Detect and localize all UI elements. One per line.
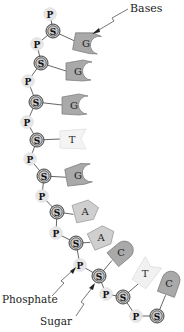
node-letter: S	[54, 208, 61, 218]
base-letter: G	[74, 170, 82, 181]
base-letter: T	[142, 268, 149, 279]
phosphate-pointer-arrow	[52, 271, 72, 296]
sugar-node: S	[30, 133, 44, 147]
base-g: G	[66, 60, 92, 81]
sugar-node: S	[34, 56, 48, 70]
sugar-node: S	[116, 290, 130, 304]
node-letter: S	[120, 293, 127, 303]
phosphate-node: P	[36, 190, 49, 203]
node-letter: P	[133, 312, 140, 322]
sugar-node: S	[92, 269, 106, 283]
bases-arrowhead-icon	[92, 28, 100, 34]
phosphate-arrowhead-icon	[70, 267, 76, 274]
node-letter: S	[38, 59, 45, 69]
sugar-node: S	[46, 24, 60, 38]
base-letter: C	[165, 278, 173, 289]
base-t: T	[60, 129, 86, 149]
phosphate-node: P	[100, 288, 113, 301]
phosphate-node: P	[130, 310, 143, 323]
phosphate-node: P	[74, 259, 87, 272]
base-letter: G	[82, 38, 90, 49]
bases-pointer-arrow	[97, 9, 128, 31]
base-letter: G	[74, 66, 82, 77]
node-letter: S	[41, 172, 48, 182]
base-a: A	[87, 222, 118, 251]
phosphate-node: P	[31, 38, 44, 51]
sugar-node: S	[50, 205, 64, 219]
base-g: G	[62, 94, 88, 115]
base-letter: G	[70, 100, 78, 111]
node-letter: P	[24, 118, 31, 128]
base-c: C	[157, 269, 182, 298]
base-letter: T	[69, 134, 76, 145]
sugar-arrowhead-icon	[89, 283, 95, 290]
node-letter: P	[27, 155, 34, 165]
phosphate-node: P	[24, 153, 37, 166]
node-letter: P	[53, 229, 60, 239]
phosphate-node: P	[22, 75, 35, 88]
bases-label: Bases	[130, 2, 163, 15]
sugar-label: Sugar	[40, 315, 73, 327]
node-letter: S	[34, 136, 41, 146]
node-letter: P	[34, 40, 41, 50]
node-letter: S	[33, 98, 40, 108]
dna-strand-diagram: GGGTGAACTC PSPSPSPSPSPSPSPSPSPS Bases Ph…	[0, 0, 184, 332]
node-letter: P	[25, 77, 32, 87]
phosphate-node: P	[50, 227, 63, 240]
sugar-pointer-arrow	[76, 288, 92, 316]
base-g: G	[72, 30, 101, 55]
node-letter: P	[103, 290, 110, 300]
sugar-node: S	[29, 95, 43, 109]
sugar-node: S	[37, 169, 51, 183]
node-letter: P	[77, 261, 84, 271]
base-letter: A	[80, 206, 89, 217]
phosphate-label: Phosphate	[2, 293, 58, 305]
phosphate-node: P	[44, 8, 57, 21]
node-letter: P	[39, 192, 46, 202]
base-g: G	[64, 162, 93, 187]
node-letter: S	[50, 27, 57, 37]
node-letter: P	[47, 10, 54, 20]
phosphate-node: P	[21, 116, 34, 129]
node-letter: S	[154, 312, 161, 322]
sugar-node: S	[69, 236, 83, 250]
base-a: A	[72, 198, 101, 224]
base-letter: A	[96, 232, 105, 243]
node-letter: S	[73, 239, 80, 249]
sugar-node: S	[150, 309, 164, 323]
node-letter: S	[96, 272, 103, 282]
base-letter: C	[117, 247, 125, 258]
base-t: T	[130, 257, 161, 290]
